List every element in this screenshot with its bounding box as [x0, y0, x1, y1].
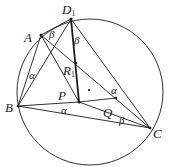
angle-beta-A: β — [48, 28, 55, 40]
label-A: A — [23, 30, 32, 45]
point-C — [149, 127, 152, 130]
label-C: C — [153, 126, 162, 141]
point-R1 — [75, 62, 78, 65]
angle-alpha-B: α — [29, 69, 35, 81]
label-R1: R1 — [62, 63, 75, 79]
label-D1: D1 — [61, 2, 75, 18]
segment-B-C — [18, 106, 150, 128]
point-B — [17, 105, 20, 108]
angle-alpha-BC: α — [61, 104, 67, 116]
segment-A-C — [41, 35, 150, 128]
segment-P-C — [79, 102, 150, 128]
angle-beta-D1: β — [73, 34, 80, 46]
point-A — [40, 34, 43, 37]
geometry-diagram: D1 A B C P Q R1 β β α α α β — [0, 0, 169, 167]
point-P — [78, 101, 81, 104]
angle-alpha-Q: α — [111, 84, 117, 96]
angle-beta-C: β — [118, 114, 125, 126]
label-B: B — [5, 100, 13, 115]
center-point — [88, 89, 90, 91]
point-Q — [115, 97, 118, 100]
segment-P-Q — [79, 98, 116, 102]
label-Q: Q — [103, 105, 113, 120]
label-P: P — [57, 88, 66, 103]
segment-B-P — [18, 102, 79, 106]
